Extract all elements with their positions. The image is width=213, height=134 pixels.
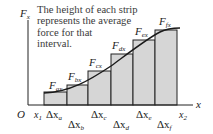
delta-label-a: Δxa [46, 108, 63, 122]
caption-text: The height of each strip represents the … [37, 4, 167, 49]
x2-label: x2 [178, 109, 187, 122]
strip-e [133, 40, 155, 105]
force-label-c: Fcx [88, 56, 103, 70]
delta-label-e: Δxe [136, 108, 152, 122]
strip-c [88, 71, 111, 105]
origin-label: O [17, 108, 25, 120]
delta-labels: Δxa Δxb Δxc Δxd Δxe Δxf [46, 108, 173, 132]
y-axis-label: Fx [19, 7, 31, 21]
force-label-b: Fbx [67, 70, 82, 84]
caption-line: force for that [37, 27, 167, 38]
strip-d [111, 54, 133, 105]
caption-line: represents the average [37, 15, 167, 26]
delta-label-d: Δxd [113, 118, 130, 132]
x1-label: x1 [33, 109, 42, 122]
delta-label-c: Δxc [91, 108, 108, 122]
force-label-a: Fax [48, 79, 63, 93]
caption-line: The height of each strip [37, 4, 167, 15]
delta-label-f: Δxf [157, 118, 173, 132]
caption-line: interval. [37, 38, 167, 49]
delta-label-b: Δxb [68, 118, 85, 132]
x-axis-label: x [195, 98, 201, 110]
strip-a [44, 92, 67, 105]
